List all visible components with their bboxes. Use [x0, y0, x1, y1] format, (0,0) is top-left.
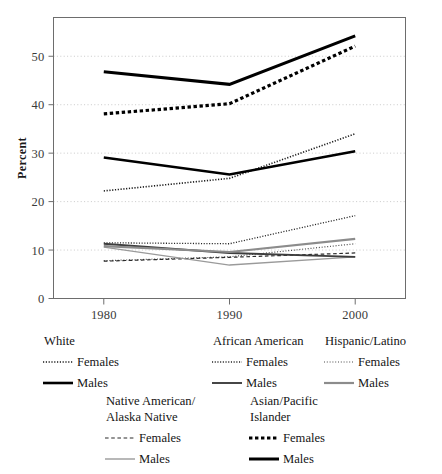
- legend-entry-label: Males: [283, 452, 314, 466]
- y-axis-tick-labels: 01020304050: [32, 50, 45, 306]
- legend-entry-label: Males: [139, 452, 170, 466]
- legend-group-title: African American: [213, 334, 304, 348]
- series-line: [104, 244, 355, 257]
- y-tick-label: 20: [32, 195, 45, 209]
- y-tick-label: 50: [32, 50, 45, 64]
- series-line: [104, 151, 355, 174]
- legend-group: African AmericanFemalesMales: [212, 334, 304, 390]
- legend-group-title-line2: Islander: [250, 410, 291, 424]
- legend-entry-label: Females: [139, 431, 181, 445]
- legend-group: Asian/PacificIslanderFemalesMales: [249, 394, 325, 466]
- legend-group: Native American/Alaska NativeFemalesMale…: [105, 394, 196, 466]
- legend-entry-label: Females: [246, 355, 288, 369]
- y-tick-label: 40: [32, 98, 45, 112]
- y-tick-label: 10: [32, 244, 45, 258]
- y-tick-label: 0: [38, 292, 44, 306]
- x-tick-label: 1990: [217, 308, 243, 322]
- legend-group-title: White: [44, 334, 75, 348]
- y-axis-title: Percent: [15, 137, 29, 179]
- legend-entry-label: Males: [358, 376, 389, 390]
- legend-entry-label: Females: [77, 355, 119, 369]
- series-line: [104, 46, 355, 114]
- legend-group-title: Native American/: [106, 394, 196, 408]
- x-tick-label: 2000: [342, 308, 368, 322]
- legend-entry-label: Males: [77, 376, 108, 390]
- legend-entry-label: Females: [283, 431, 325, 445]
- series-line: [104, 239, 355, 252]
- legend-entry-label: Females: [358, 355, 400, 369]
- series-line: [104, 36, 355, 84]
- series-line: [104, 216, 355, 244]
- data-series-layer: [104, 36, 355, 265]
- x-axis-tick-labels: 198019902000: [91, 308, 368, 322]
- legend: WhiteFemalesMalesAfrican AmericanFemales…: [43, 334, 406, 466]
- x-tick-label: 1980: [91, 308, 117, 322]
- line-chart-figure: 01020304050 198019902000 Percent WhiteFe…: [0, 0, 442, 474]
- legend-group-title-line2: Alaska Native: [106, 410, 178, 424]
- legend-group: Hispanic/LatinoFemalesMales: [324, 334, 406, 390]
- figure-container: 01020304050 198019902000 Percent WhiteFe…: [0, 0, 442, 474]
- legend-entry-label: Males: [246, 376, 277, 390]
- legend-group-title: Asian/Pacific: [250, 394, 318, 408]
- legend-group: WhiteFemalesMales: [43, 334, 119, 390]
- legend-group-title: Hispanic/Latino: [325, 334, 406, 348]
- y-tick-label: 30: [32, 147, 45, 161]
